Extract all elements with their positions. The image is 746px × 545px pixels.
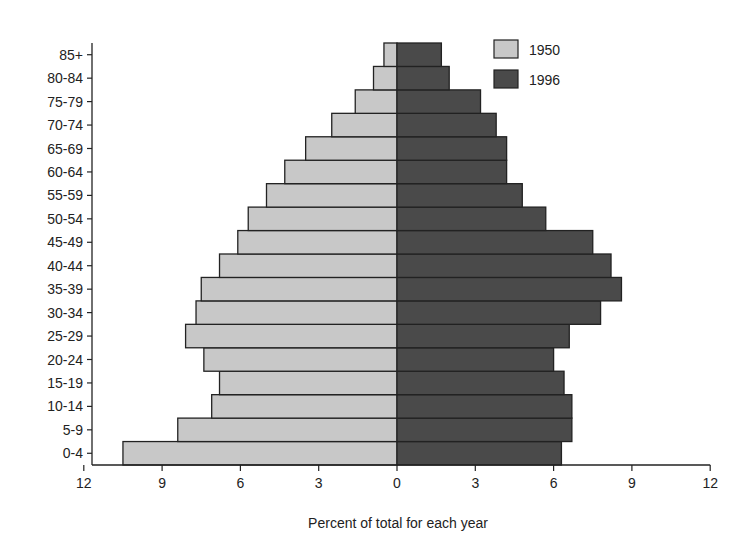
legend-label-1950: 1950 <box>529 42 560 58</box>
x-tick-label: 9 <box>158 475 166 491</box>
bar-1950-70-74 <box>332 113 397 136</box>
legend-swatch-1950 <box>494 40 518 58</box>
y-tick-label: 5-9 <box>63 422 83 438</box>
bar-1996-35-39 <box>397 277 621 300</box>
bar-1950-55-59 <box>267 184 398 207</box>
bar-1950-20-24 <box>204 348 397 371</box>
bar-1950-45-49 <box>238 231 397 254</box>
y-tick-label: 10-14 <box>47 398 83 414</box>
legend-label-1996: 1996 <box>529 72 560 88</box>
bar-1950-30-34 <box>196 301 397 324</box>
bar-1950-5-9 <box>178 418 397 441</box>
y-tick-label: 85+ <box>59 47 83 63</box>
bar-1996-45-49 <box>397 231 593 254</box>
x-tick-label: 3 <box>315 475 323 491</box>
y-tick-label: 25-29 <box>47 328 83 344</box>
bar-1996-25-29 <box>397 324 569 347</box>
bar-1996-40-44 <box>397 254 611 277</box>
bar-1950-60-64 <box>285 160 397 183</box>
y-tick-label: 45-49 <box>47 234 83 250</box>
bar-1996-55-59 <box>397 184 522 207</box>
y-tick-label: 55-59 <box>47 187 83 203</box>
bar-1996-0-4 <box>397 442 561 465</box>
x-tick-label: 9 <box>628 475 636 491</box>
x-tick-label: 6 <box>550 475 558 491</box>
x-tick-label: 12 <box>76 475 92 491</box>
y-tick-label: 15-19 <box>47 375 83 391</box>
bar-1996-50-54 <box>397 207 546 230</box>
bar-1996-10-14 <box>397 395 572 418</box>
y-tick-label: 0-4 <box>63 445 83 461</box>
bar-1996-5-9 <box>397 418 572 441</box>
y-tick-label: 70-74 <box>47 117 83 133</box>
bar-1950-15-19 <box>220 371 397 394</box>
bar-1996-80-84 <box>397 66 449 89</box>
bar-1950-75-79 <box>355 90 397 113</box>
bar-1996-85+ <box>397 43 441 66</box>
x-tick-label: 3 <box>471 475 479 491</box>
x-tick-label: 6 <box>237 475 245 491</box>
y-tick-label: 35-39 <box>47 281 83 297</box>
x-axis-label: Percent of total for each year <box>308 515 488 531</box>
x-tick-label: 0 <box>393 475 401 491</box>
bar-1996-15-19 <box>397 371 564 394</box>
bar-1996-20-24 <box>397 348 554 371</box>
bar-1996-75-79 <box>397 90 481 113</box>
bar-1950-80-84 <box>374 66 397 89</box>
bar-1996-60-64 <box>397 160 507 183</box>
y-tick-label: 75-79 <box>47 94 83 110</box>
y-tick-label: 50-54 <box>47 211 83 227</box>
bar-1950-85+ <box>384 43 397 66</box>
y-tick-label: 30-34 <box>47 305 83 321</box>
bar-1950-35-39 <box>201 277 397 300</box>
y-tick-label: 60-64 <box>47 164 83 180</box>
y-tick-label: 40-44 <box>47 258 83 274</box>
bar-1996-30-34 <box>397 301 601 324</box>
bar-1996-65-69 <box>397 137 507 160</box>
legend-swatch-1996 <box>494 70 518 88</box>
y-tick-label: 80-84 <box>47 70 83 86</box>
population-pyramid-chart: 0-45-910-1415-1920-2425-2930-3435-3940-4… <box>0 0 746 545</box>
y-tick-label: 65-69 <box>47 141 83 157</box>
bar-1950-40-44 <box>220 254 397 277</box>
bar-1950-65-69 <box>306 137 397 160</box>
x-tick-label: 12 <box>702 475 718 491</box>
bar-1950-25-29 <box>186 324 397 347</box>
bar-1950-10-14 <box>212 395 397 418</box>
bar-1950-0-4 <box>123 442 397 465</box>
bar-1996-70-74 <box>397 113 496 136</box>
y-tick-label: 20-24 <box>47 352 83 368</box>
bar-1950-50-54 <box>248 207 397 230</box>
